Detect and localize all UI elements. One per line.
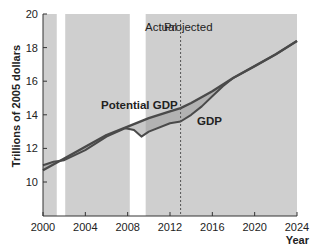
x-tick-label: 2004 xyxy=(73,221,97,233)
label-potential-gdp: Potential GDP xyxy=(101,99,178,111)
y-tick-label: 14 xyxy=(26,109,38,121)
y-tick-label: 18 xyxy=(26,42,38,54)
y-tick-label: 16 xyxy=(26,75,38,87)
x-tick-label: 2016 xyxy=(200,221,224,233)
label-gdp: GDP xyxy=(197,115,222,127)
x-axis-title: Year xyxy=(286,234,310,246)
shaded-band xyxy=(65,14,130,216)
y-tick-label: 20 xyxy=(26,8,38,20)
gdp-chart: 1012141618202000200420082012201620202024… xyxy=(0,0,319,251)
y-tick-label: 10 xyxy=(26,176,38,188)
y-axis-title: Trillions of 2005 dollars xyxy=(10,45,22,167)
y-tick-label: 12 xyxy=(26,142,38,154)
x-tick-label: 2008 xyxy=(115,221,139,233)
x-tick-label: 2000 xyxy=(31,221,55,233)
x-tick-label: 2012 xyxy=(158,221,182,233)
x-tick-label: 2024 xyxy=(285,221,309,233)
label-projected: Projected xyxy=(164,21,213,33)
x-tick-label: 2020 xyxy=(242,221,266,233)
